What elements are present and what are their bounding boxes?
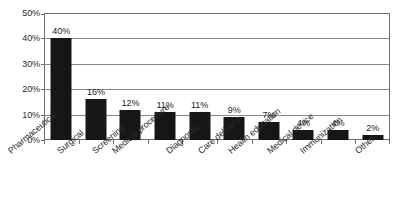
bar-slot-4: 11%: [182, 13, 217, 140]
bar-slot-9: 2%: [355, 13, 390, 140]
x-tick-mark-6: [252, 140, 253, 144]
bar-0[interactable]: [51, 38, 72, 140]
bar-value-1: 16%: [87, 87, 105, 97]
x-tick-mark-3: [148, 140, 149, 144]
y-axis-tick-10: 10%: [2, 110, 40, 120]
y-axis-tick-20: 20%: [2, 84, 40, 94]
bar-value-4: 11%: [191, 100, 208, 110]
y-axis-tick-30: 30%: [2, 59, 40, 69]
bar-value-2: 12%: [121, 98, 139, 108]
bar-value-5: 9%: [228, 105, 241, 115]
bar-value-9: 2%: [366, 123, 379, 133]
y-axis-tick-50: 50%: [2, 8, 40, 18]
x-tick-mark-10: [389, 140, 390, 144]
bar-1[interactable]: [85, 99, 106, 140]
bar-value-0: 40%: [52, 26, 70, 36]
bar-chart: 50% 40% 30% 20% 10% 0% 40% 16% 12% 11%: [0, 0, 409, 217]
x-tick-mark-9: [355, 140, 356, 144]
x-tick-mark-0: [44, 140, 45, 144]
y-axis-tick-40: 40%: [2, 33, 40, 43]
bar-slot-1: 16%: [79, 13, 114, 140]
